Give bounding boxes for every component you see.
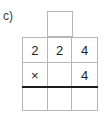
cell-r2c3[interactable]: 4 [72, 63, 97, 88]
cell-r3c2-answer[interactable] [48, 88, 73, 110]
carry-box[interactable] [47, 11, 73, 37]
multiplication-operator-icon: × [31, 69, 39, 82]
cell-r1c1-value: 2 [31, 44, 38, 57]
cell-r1c2-value: 2 [56, 44, 63, 57]
multiplication-worksheet-item: c) 2 2 4 × 4 [0, 0, 105, 116]
cell-r1c1[interactable]: 2 [23, 38, 48, 63]
cell-r3c1-answer[interactable] [23, 88, 48, 110]
answer-rule-line [22, 86, 98, 88]
cell-r2c3-value: 4 [81, 69, 88, 82]
cell-r1c3-value: 4 [81, 44, 88, 57]
part-label: c) [3, 9, 13, 23]
cell-r2c1-operator[interactable]: × [23, 63, 48, 88]
cell-r1c3[interactable]: 4 [72, 38, 97, 63]
calculation-grid: 2 2 4 × 4 [22, 37, 98, 111]
cell-r2c2[interactable] [48, 63, 73, 88]
cell-r3c3-answer[interactable] [72, 88, 97, 110]
cell-r1c2[interactable]: 2 [48, 38, 73, 63]
